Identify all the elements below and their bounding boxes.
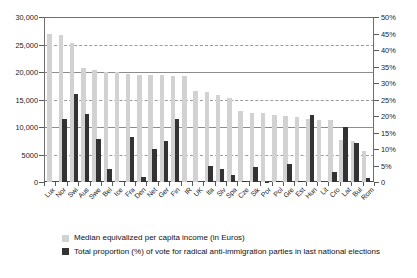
- bar-group: [68, 17, 79, 182]
- bar-vote: [354, 143, 358, 182]
- bar-vote: [298, 181, 302, 182]
- x-axis-label: Lit: [319, 186, 329, 196]
- bar-income: [182, 76, 186, 182]
- bar-group: [192, 17, 203, 182]
- right-axis-tick-label: 35%: [381, 62, 396, 71]
- x-axis-label: Cze: [236, 186, 250, 200]
- x-axis-label: Aus: [77, 186, 90, 199]
- x-axis-label: Slk: [249, 186, 261, 198]
- chart-legend: Median equivalized per capita income (in…: [62, 233, 412, 260]
- bar-income: [295, 117, 299, 182]
- bar-group: [215, 17, 226, 182]
- legend-label-income: Median equivalized per capita income (in…: [74, 233, 245, 244]
- bar-group: [125, 17, 136, 182]
- left-axis-tick-label: 15,000: [15, 95, 38, 104]
- right-axis-tickmark: [374, 116, 379, 117]
- bar-vote: [310, 115, 314, 182]
- bar-vote: [141, 177, 145, 182]
- right-axis-tick-label: 10%: [381, 145, 396, 154]
- x-axis-tickmark: [374, 182, 375, 186]
- bar-vote: [107, 169, 111, 182]
- bar-group: [271, 17, 282, 182]
- bar-vote: [96, 139, 100, 182]
- x-axis-label: Ger: [157, 186, 170, 199]
- bar-group: [113, 17, 124, 182]
- right-axis-tick-label: 5%: [381, 161, 392, 170]
- bar-group: [327, 17, 338, 182]
- right-axis-tick-label: 45%: [381, 29, 396, 38]
- bar-vote: [62, 119, 66, 182]
- bar-income: [272, 115, 276, 182]
- bar-group: [304, 17, 315, 182]
- bar-vote: [175, 119, 179, 182]
- bar-income: [317, 120, 321, 182]
- x-axis-label: Rom: [359, 186, 374, 201]
- bar-vote: [287, 164, 291, 182]
- legend-swatch-vote: [62, 248, 69, 255]
- bar-vote: [220, 169, 224, 182]
- left-axis-tick-label: 20,000: [15, 68, 38, 77]
- bar-group: [349, 17, 360, 182]
- right-axis-tickmark: [374, 166, 379, 167]
- bar-group: [203, 17, 214, 182]
- left-axis-tick-label: 5000: [22, 150, 38, 159]
- x-axis-label: Swe: [87, 186, 101, 200]
- bar-series-container: [44, 17, 374, 182]
- bar-income: [47, 34, 51, 183]
- bar-income: [193, 91, 197, 182]
- bar-vote: [85, 114, 89, 182]
- bar-vote: [332, 172, 336, 182]
- x-axis-label: Ita: [205, 186, 215, 196]
- bar-group: [102, 17, 113, 182]
- right-axis-tick-label: 25%: [381, 95, 396, 104]
- bar-group: [316, 17, 327, 182]
- legend-item-vote: Total proportion (%) of vote for radical…: [62, 247, 412, 258]
- bar-vote: [242, 181, 246, 182]
- bar-income: [227, 98, 231, 182]
- right-axis-tickmark: [374, 17, 379, 18]
- dual-axis-bar-chart: 0500010,00015,00020,00025,00030,000 05%1…: [0, 0, 417, 278]
- x-axis-label: Pol: [272, 186, 284, 198]
- bar-group: [226, 17, 237, 182]
- right-axis-tickmark: [374, 34, 379, 35]
- bar-income: [261, 113, 265, 182]
- bar-group: [259, 17, 270, 182]
- bar-income: [137, 75, 141, 182]
- bar-group: [170, 17, 181, 182]
- x-axis-label: Hun: [304, 186, 318, 200]
- x-axis-label: Nor: [55, 186, 68, 199]
- bar-vote: [276, 181, 280, 182]
- bar-group: [136, 17, 147, 182]
- bar-vote: [164, 141, 168, 182]
- x-axis-label: Por: [260, 186, 272, 198]
- bar-group: [57, 17, 68, 182]
- bar-vote: [152, 149, 156, 182]
- left-axis-tick-label: 0: [34, 178, 38, 187]
- right-axis-tickmark: [374, 50, 379, 51]
- legend-label-vote: Total proportion (%) of vote for radical…: [74, 247, 380, 258]
- right-axis-tickmark: [374, 133, 379, 134]
- bar-group: [158, 17, 169, 182]
- bar-group: [181, 17, 192, 182]
- bar-group: [248, 17, 259, 182]
- bar-group: [338, 17, 349, 182]
- right-axis-tick-label: 20%: [381, 112, 396, 121]
- bar-group: [361, 17, 372, 182]
- bar-vote: [74, 94, 78, 182]
- bar-income: [238, 111, 242, 183]
- bar-vote: [208, 166, 212, 182]
- x-axis-label: Cro: [328, 186, 341, 199]
- x-axis-label: UK: [192, 186, 204, 198]
- x-axis-label: Ice: [113, 186, 124, 197]
- bar-group: [91, 17, 102, 182]
- plot-area: [44, 17, 374, 182]
- right-axis-tick-label: 15%: [381, 128, 396, 137]
- left-axis-tick-label: 10,000: [15, 123, 38, 132]
- right-axis-tick-label: 50%: [381, 13, 396, 22]
- bar-vote: [253, 167, 257, 182]
- bar-group: [237, 17, 248, 182]
- bar-income: [115, 72, 119, 182]
- left-axis-tick-label: 25,000: [15, 40, 38, 49]
- right-axis-tick-label: 40%: [381, 46, 396, 55]
- bar-vote: [343, 127, 347, 182]
